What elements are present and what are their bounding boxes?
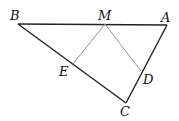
segment-ba [18,24,167,25]
segment-ac [126,25,167,103]
label-m: M [97,8,112,23]
label-a: A [160,10,170,25]
label-c: C [120,104,130,119]
segment-md [105,24,141,71]
segment-me [73,24,105,64]
inner-segments [73,24,141,71]
geometry-diagram: B M A E D C [0,0,179,121]
label-e: E [58,64,69,79]
label-b: B [9,8,20,23]
segment-bc [18,24,126,103]
label-d: D [142,72,154,87]
triangle-abc [18,24,167,103]
